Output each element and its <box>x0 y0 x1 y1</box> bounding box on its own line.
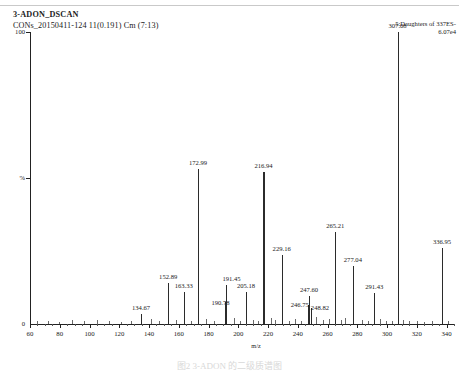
x-axis-tick <box>328 324 329 328</box>
y-label-bottom: 0 <box>22 321 25 328</box>
top-divider <box>0 5 459 6</box>
x-axis-minor-tick <box>380 324 381 326</box>
x-axis-minor-tick <box>305 324 306 326</box>
x-axis-tick <box>238 324 239 328</box>
x-axis-minor-tick <box>231 324 232 326</box>
x-axis-minor-tick <box>275 324 276 326</box>
x-axis-tick-label: 120 <box>114 330 124 337</box>
run-info: CONs_20150411-124 11(0.191) Cm (7:13) <box>13 21 158 32</box>
x-axis-tick-label: 280 <box>352 330 362 337</box>
x-axis-tick-label: 140 <box>144 330 154 337</box>
x-axis-tick-label: 300 <box>382 330 392 337</box>
x-axis-minor-tick <box>313 324 314 326</box>
x-axis-tick-label: 80 <box>56 330 63 337</box>
x-axis-title: m/z <box>251 342 261 349</box>
x-axis-tick-label: 260 <box>322 330 332 337</box>
x-axis-tick-label: 340 <box>441 330 451 337</box>
x-axis-minor-tick <box>335 324 336 326</box>
x-axis-minor-tick <box>97 324 98 326</box>
x-axis-tick-label: 320 <box>412 330 422 337</box>
x-axis-minor-tick <box>127 324 128 326</box>
x-axis-minor-tick <box>37 324 38 326</box>
x-axis-tick-label: 100 <box>84 330 94 337</box>
x-axis-tick <box>209 324 210 328</box>
x-axis-tick-label: 220 <box>263 330 273 337</box>
x-axis-tick-label: 160 <box>174 330 184 337</box>
x-axis-minor-tick <box>246 324 247 326</box>
x-axis-tick <box>90 324 91 328</box>
figure-caption: 图2 3-ADON 的二级质谱图 <box>0 359 459 371</box>
x-axis-minor-tick <box>82 324 83 326</box>
x-axis-minor-tick <box>283 324 284 326</box>
x-axis-tick <box>387 324 388 328</box>
x-axis-minor-tick <box>201 324 202 326</box>
x-axis-minor-tick <box>104 324 105 326</box>
x-axis-line <box>30 324 454 325</box>
x-axis-ticks-layer: 6080100120140160180200220240260280300320… <box>30 32 454 324</box>
x-axis-minor-tick <box>365 324 366 326</box>
x-axis-minor-tick <box>45 324 46 326</box>
x-axis-tick <box>417 324 418 328</box>
x-axis-tick <box>119 324 120 328</box>
x-axis-minor-tick <box>223 324 224 326</box>
x-axis-tick <box>268 324 269 328</box>
x-axis-minor-tick <box>394 324 395 326</box>
sample-name: 3-ADON_DSCAN <box>13 10 158 21</box>
x-axis-tick-label: 240 <box>293 330 303 337</box>
x-axis-minor-tick <box>253 324 254 326</box>
x-axis-minor-tick <box>432 324 433 326</box>
x-axis-tick <box>357 324 358 328</box>
x-axis-minor-tick <box>67 324 68 326</box>
x-axis-minor-tick <box>142 324 143 326</box>
x-axis-minor-tick <box>164 324 165 326</box>
x-axis-minor-tick <box>424 324 425 326</box>
plot-area: 100 % 0 134.67152.89163.33172.99190.7819… <box>30 32 454 324</box>
y-label-percent: % <box>20 175 26 182</box>
x-axis-minor-tick <box>372 324 373 326</box>
x-axis-minor-tick <box>216 324 217 326</box>
x-axis-minor-tick <box>186 324 187 326</box>
x-axis-minor-tick <box>171 324 172 326</box>
x-axis-tick <box>179 324 180 328</box>
peak-label: 307.08 <box>389 23 407 30</box>
x-axis-tick-label: 180 <box>203 330 213 337</box>
x-axis-minor-tick <box>134 324 135 326</box>
x-axis-tick-label: 200 <box>233 330 243 337</box>
x-axis-minor-tick <box>290 324 291 326</box>
x-axis-minor-tick <box>156 324 157 326</box>
x-axis-tick <box>447 324 448 328</box>
x-axis-minor-tick <box>261 324 262 326</box>
x-axis-minor-tick <box>439 324 440 326</box>
x-axis-tick <box>60 324 61 328</box>
x-axis-tick <box>298 324 299 328</box>
y-label-top: 100 <box>15 29 25 36</box>
x-axis-minor-tick <box>194 324 195 326</box>
x-axis-minor-tick <box>342 324 343 326</box>
x-axis-minor-tick <box>402 324 403 326</box>
x-axis-minor-tick <box>454 324 455 326</box>
x-axis-minor-tick <box>320 324 321 326</box>
x-axis-tick-label: 60 <box>27 330 34 337</box>
x-axis-minor-tick <box>75 324 76 326</box>
x-axis-minor-tick <box>409 324 410 326</box>
x-axis-minor-tick <box>112 324 113 326</box>
x-axis-tick <box>30 324 31 328</box>
x-axis-minor-tick <box>52 324 53 326</box>
x-axis-tick <box>149 324 150 328</box>
spectrum-header: 3-ADON_DSCAN CONs_20150411-124 11(0.191)… <box>13 10 158 31</box>
x-axis-minor-tick <box>350 324 351 326</box>
